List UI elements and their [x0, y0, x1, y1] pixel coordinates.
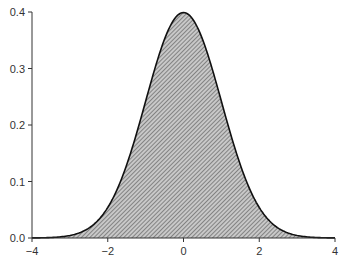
x-axis: −4−2024 — [26, 238, 338, 257]
y-tick-label: 0.1 — [10, 176, 25, 188]
y-tick-label: 0.0 — [10, 232, 25, 244]
y-axis: 0.00.10.20.30.4 — [10, 6, 32, 244]
x-tick-label: 4 — [332, 245, 338, 257]
y-tick-label: 0.2 — [10, 119, 25, 131]
x-tick-label: −4 — [26, 245, 39, 257]
plot-area — [32, 13, 335, 238]
x-tick-label: 2 — [256, 245, 262, 257]
y-tick-label: 0.4 — [10, 6, 25, 18]
x-tick-label: −2 — [101, 245, 114, 257]
x-tick-label: 0 — [180, 245, 186, 257]
normal-density-chart: 0.00.10.20.30.4 −4−2024 — [0, 0, 347, 270]
density-area-fill — [32, 13, 335, 238]
y-tick-label: 0.3 — [10, 63, 25, 75]
